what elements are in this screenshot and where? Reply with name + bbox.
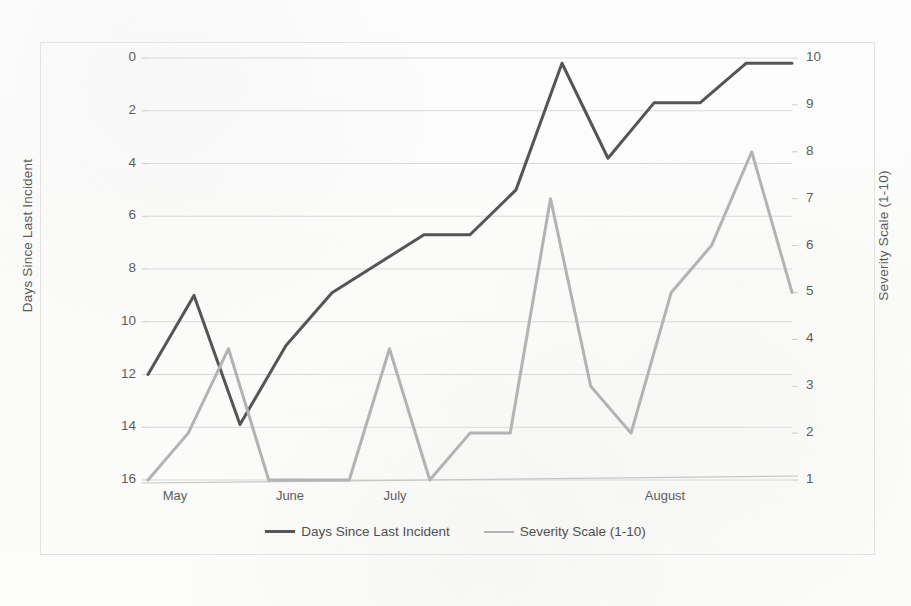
legend-label-severity: Severity Scale (1-10)	[520, 524, 646, 539]
chart-plot-area	[0, 0, 911, 606]
y-axis-right-tick-label: 8	[806, 143, 846, 158]
series-line-severity	[148, 152, 792, 480]
x-axis-tick-label: August	[620, 488, 710, 503]
legend-label-days: Days Since Last Incident	[301, 524, 450, 539]
series-line-days	[148, 63, 792, 424]
chart-legend: Days Since Last Incident Severity Scale …	[0, 524, 911, 539]
chart-page: 0246810121416 10987654321 MayJuneJulyAug…	[0, 0, 911, 606]
y-axis-right-tick-label: 3	[806, 377, 846, 392]
series-lines	[148, 63, 792, 480]
y-axis-right-tick-label: 6	[806, 237, 846, 252]
y-axis-right-tick-label: 5	[806, 283, 846, 298]
y-axis-left-tick-label: 16	[92, 471, 136, 486]
y-axis-right-tick-label: 4	[806, 330, 846, 345]
legend-swatch-days-icon	[265, 530, 295, 533]
y-axis-left-tick-label: 0	[92, 49, 136, 64]
y-axis-left-tick-label: 4	[92, 155, 136, 170]
x-axis-tick-label: July	[350, 488, 440, 503]
x-axis-tick-label: May	[130, 488, 220, 503]
y-axis-left-tick-label: 2	[92, 102, 136, 117]
legend-item-days[interactable]: Days Since Last Incident	[265, 524, 450, 539]
y-axis-left-title: Days Since Last Incident	[20, 121, 35, 351]
y-axis-left-tick-label: 8	[92, 260, 136, 275]
y-axis-left-tick-label: 10	[92, 313, 136, 328]
legend-swatch-severity-icon	[484, 531, 514, 533]
y-axis-right-tick-label: 2	[806, 424, 846, 439]
y-axis-left-tick-label: 14	[92, 418, 136, 433]
legend-item-severity[interactable]: Severity Scale (1-10)	[484, 524, 646, 539]
y-axis-right-tick-label: 7	[806, 190, 846, 205]
x-axis-tick-label: June	[245, 488, 335, 503]
y-axis-left-tick-label: 12	[92, 366, 136, 381]
y-axis-right-tick-label: 10	[806, 49, 846, 64]
y-axis-right-title: Severity Scale (1-10)	[876, 121, 891, 351]
y-axis-right-tick-label: 1	[806, 471, 846, 486]
y-axis-right-tick-label: 9	[806, 96, 846, 111]
y-axis-left-tick-label: 6	[92, 207, 136, 222]
